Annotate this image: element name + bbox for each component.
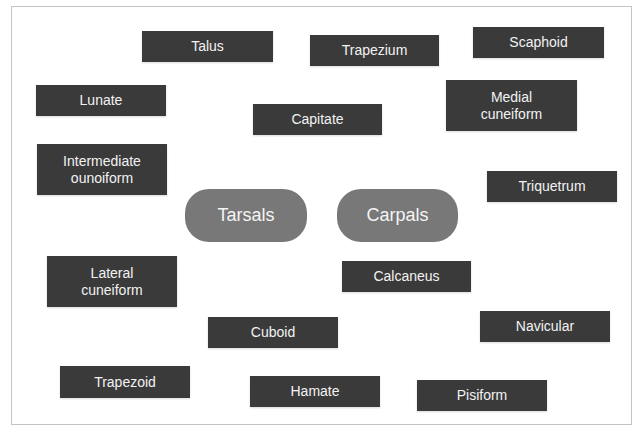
term-lunate[interactable]: Lunate [36,85,166,116]
term-lateral-cuneiform[interactable]: Lateral cuneiform [47,256,177,307]
term-trapezium[interactable]: Trapezium [310,35,439,66]
term-triquetrum[interactable]: Triquetrum [487,171,617,202]
term-trapezoid[interactable]: Trapezoid [60,366,190,398]
term-pisiform[interactable]: Pisiform [417,380,547,411]
category-tarsals: Tarsals [185,189,307,242]
term-capitate[interactable]: Capitate [253,104,382,135]
term-navicular[interactable]: Navicular [480,311,610,342]
diagram-frame [11,6,632,425]
term-scaphoid[interactable]: Scaphoid [473,27,604,58]
category-carpals: Carpals [337,189,458,242]
term-hamate[interactable]: Hamate [250,376,380,407]
term-medial-cuneiform[interactable]: Medial cuneiform [446,80,577,131]
term-calcaneus[interactable]: Calcaneus [342,261,471,292]
term-talus[interactable]: Talus [142,31,273,62]
term-cuboid[interactable]: Cuboid [208,317,338,348]
term-intermediate-cuneiform[interactable]: Intermediate ounoiform [37,144,167,195]
